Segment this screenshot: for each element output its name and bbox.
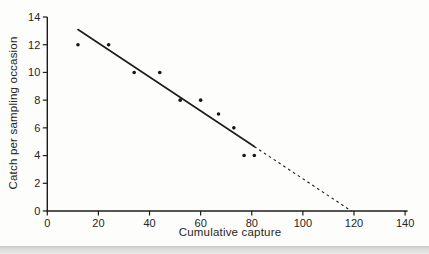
x-tick-label: 20 — [92, 217, 104, 229]
data-point — [158, 71, 162, 75]
x-tick-label: 140 — [396, 217, 414, 229]
y-tick-label: 4 — [34, 149, 40, 161]
chart-canvas: 02040608010012014002468101214 — [0, 0, 429, 246]
y-tick-label: 6 — [34, 122, 40, 134]
data-point — [253, 154, 257, 158]
depletion-scatter-chart: 02040608010012014002468101214 Catch per … — [0, 0, 429, 246]
x-tick-label: 0 — [44, 217, 50, 229]
data-point — [76, 43, 80, 47]
data-point — [232, 126, 236, 130]
y-tick-label: 0 — [34, 205, 40, 217]
data-point — [107, 43, 111, 47]
y-tick-label: 10 — [28, 66, 40, 78]
trend-line-solid — [78, 29, 254, 146]
x-tick-label: 120 — [345, 217, 363, 229]
data-point — [132, 71, 136, 75]
x-tick-label: 100 — [294, 217, 312, 229]
data-point — [217, 112, 221, 116]
data-point — [178, 98, 182, 102]
y-tick-label: 2 — [34, 177, 40, 189]
data-point — [242, 154, 246, 158]
y-tick-label: 14 — [28, 11, 40, 23]
data-point — [199, 98, 203, 102]
y-axis-title: Catch per sampling occasion — [7, 36, 19, 189]
trend-line-dashed-extrapolation — [254, 147, 351, 211]
y-tick-label: 12 — [28, 39, 40, 51]
x-axis-title: Cumulative capture — [179, 226, 282, 238]
x-tick-label: 40 — [143, 217, 155, 229]
y-tick-label: 8 — [34, 94, 40, 106]
scanned-page: 02040608010012014002468101214 Catch per … — [0, 0, 429, 254]
page-edge-strip — [0, 246, 429, 254]
